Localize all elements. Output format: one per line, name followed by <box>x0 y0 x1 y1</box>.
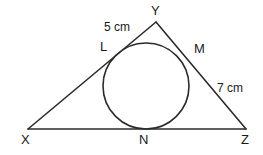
vertex-label-x: X <box>21 133 30 146</box>
inscribed-circle <box>103 43 189 129</box>
vertex-label-z: Z <box>241 133 249 146</box>
tangent-point-label-m: M <box>194 42 205 55</box>
vertex-label-y: Y <box>151 4 160 17</box>
geometry-figure: Y X Z L M N 5 cm 7 cm <box>0 0 263 155</box>
side-yz-line <box>156 22 246 129</box>
length-label-yl: 5 cm <box>104 21 130 33</box>
length-label-mz: 7 cm <box>217 82 243 94</box>
tangent-point-label-n: N <box>139 133 148 146</box>
side-xy-line <box>28 22 156 129</box>
triangle-incircle-drawing <box>0 0 263 155</box>
tangent-point-label-l: L <box>100 40 107 53</box>
